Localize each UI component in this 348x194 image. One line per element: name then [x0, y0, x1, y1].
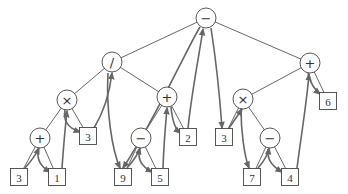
operator-node: +: [30, 128, 50, 148]
operator-node: +: [300, 53, 320, 73]
expression-tree-diagram: −/+×+×6+3−23−319574: [0, 0, 348, 194]
node-label: 7: [249, 172, 255, 184]
operand-node: 3: [80, 128, 97, 145]
operator-node: −: [131, 128, 151, 148]
node-label: 2: [185, 132, 191, 144]
operand-node: 2: [180, 129, 197, 146]
node-label: 4: [287, 172, 293, 184]
operand-node: 3: [216, 129, 233, 146]
node-label: 3: [85, 131, 91, 143]
node-label: 3: [221, 132, 227, 144]
operator-node: ×: [57, 90, 77, 110]
operand-node: 4: [282, 169, 299, 186]
operator-node: −: [260, 128, 280, 148]
operand-node: 5: [152, 169, 169, 186]
tree-edge: [112, 18, 206, 62]
operand-node: 1: [49, 169, 66, 186]
node-label: ×: [238, 92, 249, 107]
operator-node: ×: [233, 89, 253, 109]
node-label: +: [162, 90, 173, 105]
operator-node: +: [157, 87, 177, 107]
operand-node: 7: [244, 169, 261, 186]
node-label: 1: [54, 172, 60, 184]
node-label: 3: [16, 172, 22, 184]
operator-node: /: [102, 52, 122, 72]
operator-node: −: [196, 8, 216, 28]
operand-node: 3: [11, 169, 28, 186]
node-label: −: [136, 131, 147, 146]
node-label: −: [201, 11, 212, 26]
tree-nodes: −/+×+×6+3−23−319574: [11, 8, 337, 186]
tree-edge: [206, 18, 310, 63]
node-label: +: [305, 56, 316, 71]
node-label: ×: [62, 93, 73, 108]
node-label: 9: [120, 172, 126, 184]
operand-node: 9: [115, 169, 132, 186]
node-label: −: [265, 131, 276, 146]
node-label: /: [110, 55, 115, 70]
node-label: 6: [325, 96, 331, 108]
node-label: +: [35, 131, 46, 146]
node-label: 5: [157, 172, 163, 184]
operand-node: 6: [320, 93, 337, 110]
tree-edge: [243, 63, 310, 99]
